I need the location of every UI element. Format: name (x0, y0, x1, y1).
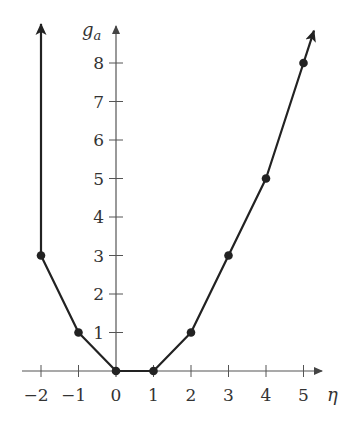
data-line (41, 63, 304, 371)
tick-group: −2−101234512345678 (23, 53, 308, 405)
y-tick-label: 3 (93, 246, 104, 266)
y-axis-label: ga (82, 19, 101, 43)
x-tick-label: −2 (23, 385, 48, 405)
x-tick-label: 2 (186, 385, 197, 405)
x-tick-label: 1 (148, 385, 159, 405)
data-point (299, 59, 308, 68)
plot-area: −2−101234512345678 ηga (0, 0, 353, 421)
data-series (37, 24, 314, 375)
x-tick-label: 0 (111, 385, 122, 405)
x-axis-label: η (327, 384, 338, 405)
y-tick-label: 4 (93, 207, 104, 227)
data-point (224, 251, 233, 260)
y-tick-label: 2 (93, 284, 104, 304)
axes (22, 26, 322, 377)
y-tick-label: 6 (93, 130, 104, 150)
y-tick-label: 8 (93, 53, 104, 73)
x-tick-label: −1 (61, 385, 86, 405)
y-tick-label: 7 (93, 92, 104, 112)
data-point (149, 367, 158, 376)
x-tick-label: 3 (223, 385, 234, 405)
y-tick-label: 1 (93, 323, 104, 343)
data-point (187, 328, 196, 337)
y-tick-label: 5 (93, 169, 104, 189)
data-point (74, 328, 83, 337)
right-extension-arrow (304, 31, 314, 63)
data-point (112, 367, 121, 376)
x-tick-label: 5 (298, 385, 309, 405)
chart: −2−101234512345678 ηga (0, 0, 353, 421)
data-point (262, 174, 271, 183)
x-tick-label: 4 (261, 385, 272, 405)
y-axis-label-subscript: a (94, 28, 102, 43)
data-point (37, 251, 46, 260)
